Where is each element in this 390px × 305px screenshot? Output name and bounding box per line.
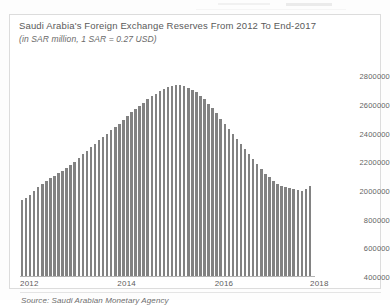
bar (102, 137, 105, 277)
y-axis-tick-label: 2400000 (359, 129, 390, 138)
bar (309, 186, 312, 277)
bar (248, 154, 251, 277)
y-axis-tick-label: 2600000 (359, 101, 390, 110)
bar (203, 99, 206, 277)
bar (73, 162, 76, 277)
bar (240, 144, 243, 277)
bar (159, 91, 162, 277)
bar (236, 139, 239, 277)
bar (29, 195, 32, 277)
bar (207, 104, 210, 277)
bar (219, 119, 222, 277)
y-axis-tick-label: 2200000 (359, 158, 390, 167)
bar (21, 200, 24, 277)
bar (155, 94, 158, 277)
y-axis-tick-label: 800000 (364, 215, 390, 224)
bar (195, 92, 198, 277)
bar (25, 198, 28, 277)
bar (264, 174, 267, 277)
y-axis-tick-label: 400000 (364, 273, 390, 282)
x-axis-tick-label: 2014 (117, 279, 136, 288)
bar (61, 171, 64, 277)
bar (41, 184, 44, 277)
bar (280, 186, 283, 277)
plot-area (20, 62, 312, 277)
bar (297, 190, 300, 277)
bar (284, 187, 287, 277)
x-axis-labels: 2012201420162018 (20, 279, 320, 293)
bar (199, 96, 202, 277)
y-axis-tick-label: 600000 (364, 244, 390, 253)
bar (86, 151, 89, 277)
bar (146, 99, 149, 277)
bar (252, 159, 255, 277)
bar (94, 144, 97, 277)
y-axis-tick-label: 2800000 (359, 72, 390, 81)
chart-title: Saudi Arabia's Foreign Exchange Reserves… (19, 20, 316, 31)
bar (167, 87, 170, 277)
scan-artifact (196, 9, 346, 10)
bar (130, 112, 133, 277)
bar (37, 187, 40, 277)
bar (163, 89, 166, 277)
bar (305, 189, 308, 277)
x-axis-tick-label: 2012 (20, 279, 39, 288)
bar (191, 90, 194, 277)
bar (268, 177, 271, 277)
bar (272, 181, 275, 277)
bar (126, 116, 129, 277)
bar (256, 164, 259, 277)
bar (175, 85, 178, 277)
bar (98, 140, 101, 277)
bar (244, 149, 247, 277)
bar (78, 158, 81, 277)
bar (215, 113, 218, 277)
bar (49, 178, 52, 277)
bar (211, 108, 214, 277)
bar (45, 181, 48, 277)
bar (90, 147, 93, 277)
bar (114, 127, 117, 277)
x-axis-tick-label: 2016 (215, 279, 234, 288)
bar (171, 86, 174, 277)
bar (224, 124, 227, 277)
bar (276, 184, 279, 277)
bar (122, 120, 125, 277)
bar (187, 88, 190, 277)
y-axis-labels: 2800000260000024000002200000200000080000… (340, 62, 390, 277)
bar (228, 129, 231, 277)
bar (260, 169, 263, 277)
bar (301, 191, 304, 277)
chart-container: Saudi Arabia's Foreign Exchange Reserves… (9, 14, 381, 289)
bar (179, 85, 182, 277)
bar (69, 165, 72, 277)
bar (151, 96, 154, 277)
bar (183, 86, 186, 277)
source-divider (20, 292, 381, 293)
bar (142, 103, 145, 277)
bar (134, 109, 137, 277)
x-axis-tick-label: 2018 (310, 279, 329, 288)
bar (232, 134, 235, 277)
bar (292, 189, 295, 277)
chart-subtitle: (in SAR million, 1 SAR = 0.27 USD) (19, 34, 157, 44)
bar (65, 168, 68, 277)
source-note: Source: Saudi Arabian Monetary Agency (21, 296, 169, 305)
bar (288, 188, 291, 277)
bar (53, 176, 56, 277)
x-axis-line (20, 276, 315, 277)
scan-artifact (218, 3, 270, 5)
y-axis-tick-label: 2000000 (359, 187, 390, 196)
bar (57, 173, 60, 277)
bar (106, 134, 109, 277)
bar (138, 106, 141, 277)
bar (110, 130, 113, 277)
bar (118, 124, 121, 277)
scan-artifact (286, 3, 332, 6)
bar (82, 154, 85, 277)
bar (33, 191, 36, 277)
